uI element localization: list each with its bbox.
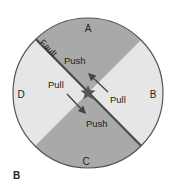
quadrant-label-b: B [150, 89, 157, 100]
focal-mechanism-diagram: A B C D Fault Push Pull Pull Push B [0, 0, 174, 186]
quadrant-label-a: A [85, 23, 92, 34]
quadrant-label-d: D [17, 89, 24, 100]
panel-label: B [13, 170, 20, 181]
push-label-upper: Push [64, 55, 86, 66]
push-label-lower: Push [86, 118, 108, 129]
pull-label-left: Pull [48, 79, 64, 90]
quadrant-label-c: C [82, 156, 89, 167]
pull-label-right: Pull [110, 94, 126, 105]
